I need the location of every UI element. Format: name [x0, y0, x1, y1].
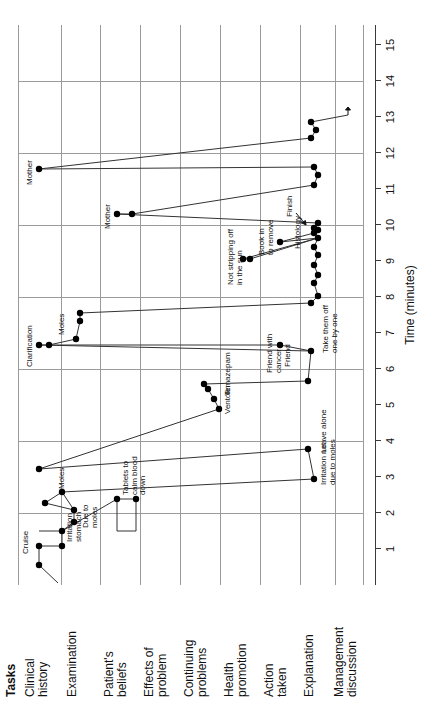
x-tick-label: 8	[384, 285, 396, 309]
x-tick-label: 11	[384, 177, 396, 201]
x-tick	[375, 152, 381, 153]
row-label-examination: Examination	[66, 589, 79, 697]
x-tick	[375, 80, 381, 81]
x-tick	[375, 512, 381, 513]
x-tick-label: 12	[384, 141, 396, 165]
x-tick-label: 13	[384, 105, 396, 129]
figure-root: Tasks Clinicalhistory Examination Patien…	[0, 0, 431, 703]
consultation-path	[18, 25, 363, 585]
row-label-patients-beliefs: Patient'sbeliefs	[103, 589, 129, 697]
x-tick	[375, 116, 381, 117]
annotation-take-them-off-one-by-one: Take them off one by one	[322, 305, 339, 353]
x-tick-label: 5	[384, 393, 396, 417]
x-tick	[375, 44, 381, 45]
row-label-continuing-problems: Continuingproblems	[183, 589, 209, 697]
annotation-cruise: Cruise	[22, 531, 31, 554]
annotation-leave-alone: Leave alone	[320, 409, 329, 453]
row-label-management-discussion: Managementdiscussion	[333, 589, 359, 697]
annotation-friend-with-cancer: Friend with cancer	[266, 334, 283, 373]
x-tick-label: 4	[384, 429, 396, 453]
x-tick	[375, 224, 381, 225]
row-label-effects-of-problem: Effects ofproblem	[143, 589, 169, 697]
x-tick	[375, 548, 381, 549]
x-tick	[375, 260, 381, 261]
x-tick-label: 14	[384, 69, 396, 93]
row-label-action-taken: Actiontaken	[263, 589, 289, 697]
annotation-clarification: Clarification	[26, 325, 35, 367]
x-tick-label: 6	[384, 357, 396, 381]
x-tick-label: 7	[384, 321, 396, 345]
x-tick	[375, 404, 381, 405]
annotation-moles-mid: Moles	[58, 314, 67, 335]
x-tick-label: 10	[384, 213, 396, 237]
x-tick-label: 3	[384, 465, 396, 489]
annotation-mother-1: Mother	[104, 204, 113, 229]
annotation-tablets-to-calm-blood-down: Tablets to calm blood down	[122, 456, 148, 495]
x-tick	[375, 296, 381, 297]
annotation-temazepam: Temazepam	[224, 352, 233, 396]
x-tick	[375, 332, 381, 333]
x-axis-title: Time (minutes)	[403, 25, 417, 585]
timeline-chart: Tasks Clinicalhistory Examination Patien…	[0, 0, 431, 703]
row-label-health-promotion: Healthpromotion	[223, 589, 249, 697]
annotation-due-to-moles: Due to moles	[82, 504, 99, 528]
annotation-finish: Finish	[286, 196, 295, 217]
annotation-friend: Friend	[284, 344, 293, 367]
plot-area: Cruise Irritation stomach Due to moles M…	[18, 25, 363, 585]
x-tick	[375, 368, 381, 369]
row-label-explanation: Explanation	[303, 589, 316, 697]
row-separator	[363, 25, 364, 585]
tasks-header: Tasks	[4, 664, 18, 697]
x-tick	[375, 188, 381, 189]
x-tick-label: 1	[384, 537, 396, 561]
x-tick-label: 9	[384, 249, 396, 273]
x-tick	[375, 440, 381, 441]
annotation-moles-examination: Moles	[58, 468, 67, 489]
annotation-histology: Histology	[294, 216, 303, 249]
annotation-book-in-to-remove: Book in to remove	[258, 219, 275, 255]
x-tick-label: 2	[384, 501, 396, 525]
x-tick	[375, 476, 381, 477]
row-label-clinical-history: Clinicalhistory	[24, 589, 50, 697]
annotation-mother-2: Mother	[26, 160, 35, 185]
x-axis-line	[375, 25, 376, 585]
x-tick-label: 15	[384, 33, 396, 57]
annotation-not-stripping-off-in-the-sun: Not stripping off in the sun	[227, 229, 244, 285]
